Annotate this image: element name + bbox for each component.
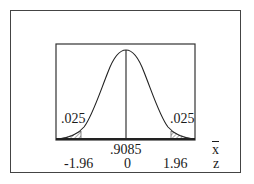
xbar-center-label: .9085 <box>110 143 142 157</box>
xbar-axis-label: x <box>212 143 219 157</box>
z-center-label: 0 <box>124 157 131 171</box>
z-axis-label: z <box>213 157 219 171</box>
right-tail-label: .025 <box>170 112 195 126</box>
left-tail-label: .025 <box>61 112 86 126</box>
z-left-label: -1.96 <box>64 157 93 171</box>
z-right-label: 1.96 <box>163 157 188 171</box>
